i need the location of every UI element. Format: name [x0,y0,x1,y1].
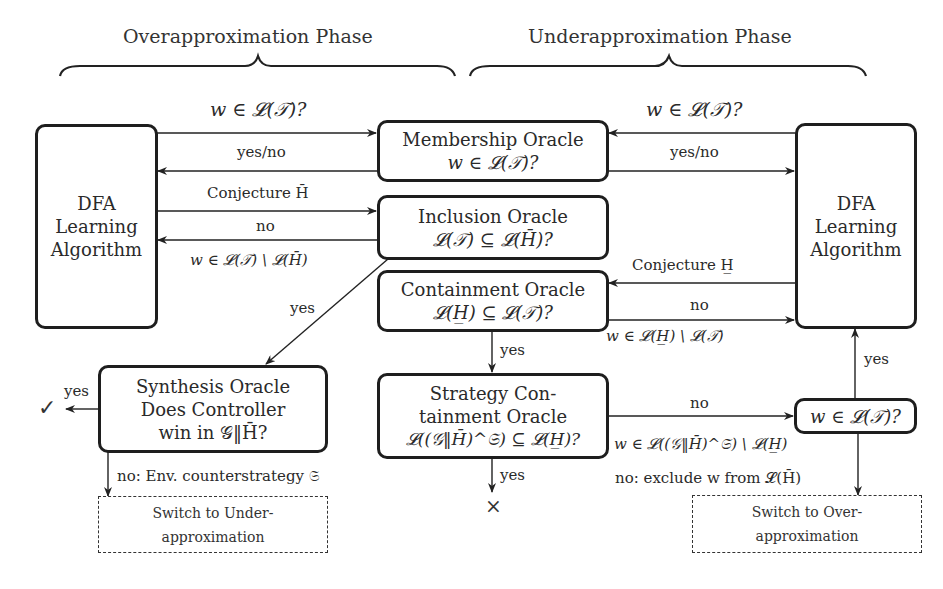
edge-label-right-query: w ∈ 𝓛(𝒯)? [646,98,742,120]
inclusion-oracle-title: Inclusion Oracle [418,205,568,228]
synthesis-oracle-box: Synthesis Oracle Does Controller win in … [98,365,328,453]
edge-label-left-counterexample: w ∈ 𝓛(𝒯) \ 𝓛(H̄) [190,252,308,269]
membership-check-query: w ∈ 𝓛(𝒯)? [810,405,901,428]
edge-label-right-counterexample: w ∈ 𝓛(H̲) \ 𝓛(𝒯) [606,328,724,345]
edge-label-left-no: no [256,218,275,235]
switch-over-line-2: approximation [756,524,859,548]
dfa-left-line-3: Algorithm [51,238,142,261]
inclusion-oracle-query: 𝓛(𝒯) ⊆ 𝓛(H̄)? [433,228,553,251]
membership-oracle-title: Membership Oracle [402,128,583,151]
edge-label-strategy-counterexample: w ∈ 𝓛((𝒢‖H̄)^𝔖) \ 𝓛(H̲) [614,436,787,453]
edge-label-left-query: w ∈ 𝓛(𝒯)? [210,98,306,120]
strategy-oracle-title-2: tainment Oracle [419,405,567,428]
edge-label-containment-yes: yes [500,342,525,359]
edge-label-right-conjecture: Conjecture H̲ [632,257,734,274]
dfa-left-line-2: Learning [55,215,137,238]
inclusion-oracle-box: Inclusion Oracle 𝓛(𝒯) ⊆ 𝓛(H̄)? [377,195,609,260]
edge-label-left-yesno: yes/no [237,144,286,161]
containment-oracle-box: Containment Oracle 𝓛(H̲) ⊆ 𝓛(𝒯)? [377,270,609,332]
success-check-icon: ✓ [38,395,56,420]
strategy-oracle-title-1: Strategy Con- [430,382,556,405]
brace-under [470,56,866,76]
containment-oracle-title: Containment Oracle [401,278,585,301]
strategy-oracle-query: 𝓛((𝒢‖H̄)^𝔖) ⊆ 𝓛(H̲)? [406,428,580,451]
synthesis-oracle-title: Synthesis Oracle [136,375,290,398]
edge-label-synthesis-no: no: Env. counterstrategy 𝔖 [117,468,320,485]
phase-title-overapproximation: Overapproximation Phase [123,28,373,45]
edge-label-inclusion-yes: yes [290,300,315,317]
switch-over-line-1: Switch to Over- [752,500,863,524]
dfa-right-line-3: Algorithm [810,238,901,261]
dfa-right-line-2: Learning [815,215,897,238]
membership-oracle-box: Membership Oracle w ∈ 𝓛(𝒯)? [377,120,609,182]
edge-label-check-no: no: exclude w from 𝓛(H̄) [615,470,801,487]
edge-label-strategy-yes: yes [500,467,525,484]
switch-to-overapproximation-box: Switch to Over- approximation [692,495,922,553]
edge-label-synthesis-yes: yes [64,383,89,400]
synthesis-oracle-line-2: Does Controller [141,398,286,421]
failure-cross-icon: × [485,494,502,518]
dfa-right-line-1: DFA [837,192,875,215]
containment-oracle-query: 𝓛(H̲) ⊆ 𝓛(𝒯)? [433,301,553,324]
dfa-learning-box-left: DFA Learning Algorithm [35,124,158,329]
membership-oracle-query: w ∈ 𝓛(𝒯)? [448,151,539,174]
switch-to-underapproximation-box: Switch to Under- approximation [98,496,328,553]
membership-check-box: w ∈ 𝓛(𝒯)? [794,398,917,434]
edge-label-right-no: no [690,297,709,314]
switch-under-line-2: approximation [162,525,265,549]
dfa-learning-box-right: DFA Learning Algorithm [795,123,917,329]
edge-label-strategy-no: no [690,395,709,412]
edge-label-check-yes: yes [864,351,889,368]
edge-label-left-conjecture: Conjecture H̄ [207,185,309,202]
dfa-left-line-1: DFA [77,192,115,215]
brace-over [60,56,455,76]
phase-title-underapproximation: Underapproximation Phase [528,28,792,45]
synthesis-oracle-line-3: win in 𝒢‖H̄? [159,421,268,444]
strategy-containment-oracle-box: Strategy Con- tainment Oracle 𝓛((𝒢‖H̄)^𝔖… [377,373,609,459]
edge-label-right-yesno: yes/no [670,144,719,161]
switch-under-line-1: Switch to Under- [153,501,274,525]
